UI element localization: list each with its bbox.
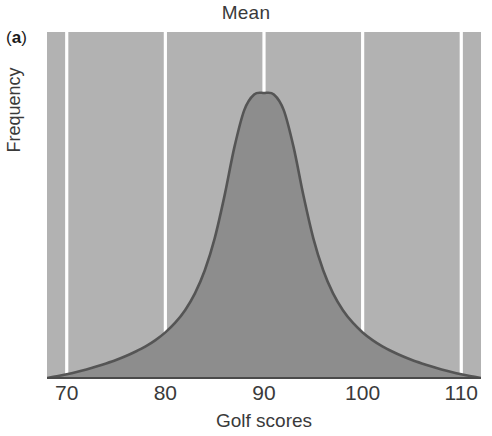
chart-title-text: Mean bbox=[222, 2, 270, 23]
x-tick-label-70: 70 bbox=[37, 381, 97, 405]
x-tick-label-80: 80 bbox=[135, 381, 195, 405]
x-axis-title-text: Golf scores bbox=[216, 410, 312, 431]
y-axis-title-text: Frequency bbox=[4, 67, 24, 152]
x-axis-tick-labels: 708090100110 bbox=[0, 381, 492, 409]
x-axis-title: Golf scores bbox=[47, 410, 481, 432]
figure-panel-a: Mean (a) Frequency 708090100110 Golf sco… bbox=[0, 0, 492, 436]
x-tick-label-90: 90 bbox=[234, 381, 294, 405]
y-axis-title: Frequency bbox=[4, 129, 25, 153]
x-tick-label-100: 100 bbox=[333, 381, 393, 405]
panel-label: (a) bbox=[6, 28, 27, 48]
panel-label-close-paren: ) bbox=[21, 28, 27, 47]
chart-title: Mean bbox=[0, 2, 492, 24]
x-tick-label-110: 110 bbox=[431, 381, 491, 405]
distribution-plot bbox=[47, 32, 481, 379]
panel-label-letter: a bbox=[12, 28, 21, 47]
plot-area bbox=[47, 32, 481, 379]
